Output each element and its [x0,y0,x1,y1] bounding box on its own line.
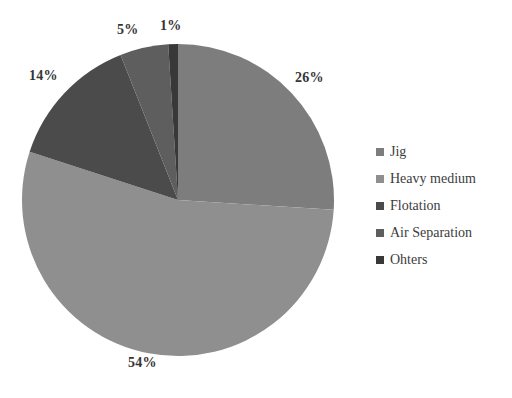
legend-item-flotation[interactable]: Flotation [376,192,506,219]
pie-svg [20,42,340,362]
data-label-ohters: 1% [160,18,181,34]
pie-slice-jig [178,44,334,210]
legend-item-ohters[interactable]: Ohters [376,246,506,273]
pie-slice-group [22,44,334,356]
legend-swatch-icon [376,148,384,156]
legend-swatch-icon [376,202,384,210]
legend-item-heavy-medium[interactable]: Heavy medium [376,165,506,192]
chart-legend: JigHeavy mediumFlotationAir SeparationOh… [376,138,506,273]
data-label-flotation: 14% [29,68,58,84]
legend-swatch-icon [376,256,384,264]
legend-swatch-icon [376,175,384,183]
pie-plot-area [20,42,340,362]
legend-item-label: Ohters [390,253,427,267]
legend-item-label: Heavy medium [390,172,476,186]
legend-item-jig[interactable]: Jig [376,138,506,165]
legend-swatch-icon [376,229,384,237]
legend-item-air-separation[interactable]: Air Separation [376,219,506,246]
legend-item-label: Flotation [390,199,441,213]
data-label-jig: 26% [295,70,324,86]
pie-chart-figure: 26% 54% 14% 5% 1% JigHeavy mediumFlotati… [0,0,512,398]
legend-item-label: Air Separation [390,226,472,240]
legend-item-label: Jig [390,145,406,159]
data-label-heavy-medium: 54% [128,355,157,371]
data-label-air-separation: 5% [117,22,138,38]
